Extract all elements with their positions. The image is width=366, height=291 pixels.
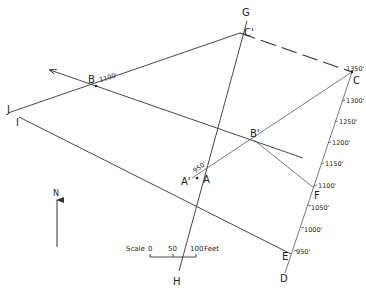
contour-1200: 1200' <box>332 139 351 147</box>
point-b-dot <box>95 85 97 87</box>
elevation-b: 1100' <box>98 71 118 84</box>
contour-1100: 1100' <box>318 182 337 190</box>
label-g: G <box>242 7 250 18</box>
label-b-prime: B' <box>250 128 260 139</box>
elevation-c: 1350' <box>346 65 365 73</box>
contour-950: 950' <box>296 248 310 256</box>
north-arrow: N <box>53 189 59 247</box>
contour-1150: 1150' <box>325 160 344 168</box>
scale-tick-100: 100 <box>190 245 203 253</box>
label-f: F <box>314 190 320 201</box>
contour-1250: 1250' <box>339 118 358 126</box>
geologic-diagram: G C' C J I B B' A' A F E D H 1100' 1350'… <box>0 0 366 291</box>
line-c-prime-c-dashed <box>240 33 352 72</box>
label-c: C <box>353 75 360 86</box>
line-j-c-prime <box>8 33 240 113</box>
north-label: N <box>53 189 59 198</box>
line-g-h <box>179 21 247 271</box>
label-c-prime: C' <box>244 27 254 38</box>
label-a-prime: A' <box>181 176 191 187</box>
scale-tick-50: 50 <box>168 245 177 253</box>
contour-1050: 1050' <box>311 204 330 212</box>
contour-1300: 1300' <box>346 97 365 105</box>
label-d: D <box>280 273 288 284</box>
line-b-prime-f <box>254 140 314 188</box>
label-e: E <box>282 251 288 262</box>
label-a: A <box>203 174 210 185</box>
scale-tick-0: 0 <box>148 245 152 253</box>
scale-bar-line <box>150 254 196 257</box>
label-b: B <box>88 74 95 85</box>
label-i: I <box>16 117 19 128</box>
scale-bar: Scale 0 50 100 Feet <box>126 245 219 257</box>
contour-1000: 1000' <box>304 226 323 234</box>
label-j: J <box>6 104 10 115</box>
scale-unit: Feet <box>204 245 219 253</box>
point-a-dot <box>196 177 199 180</box>
scale-label: Scale <box>126 245 145 253</box>
label-h: H <box>173 276 181 287</box>
